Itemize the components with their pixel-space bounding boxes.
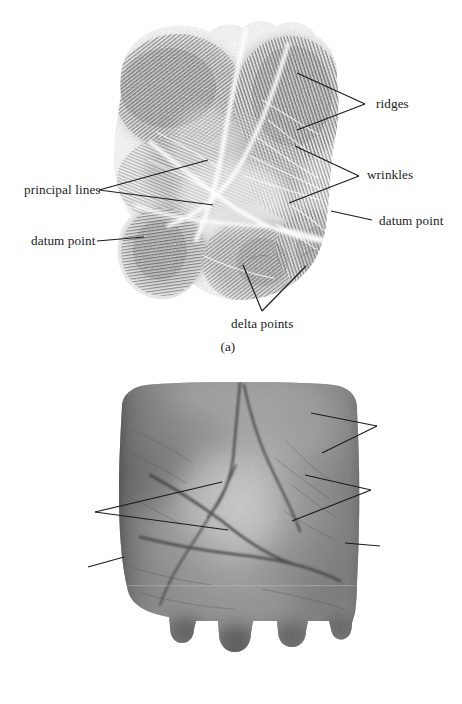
leader-ridges-lower xyxy=(297,104,365,130)
panel-b: ridges wrinkles datum point principal li… xyxy=(0,355,462,704)
leader-principal-lower xyxy=(99,190,213,205)
label-ridges-a: ridges xyxy=(376,97,409,110)
label-datum-point-right-a: datum point xyxy=(379,214,443,227)
label-delta-points-a: delta points xyxy=(231,317,293,330)
leader-datum-point-right xyxy=(345,543,380,546)
palmprint-figure: ridges wrinkles datum point principal li… xyxy=(0,0,462,704)
leader-wrinkles-upper xyxy=(305,475,371,490)
leader-ridges-lower xyxy=(322,426,377,453)
leader-ridges-upper xyxy=(311,413,377,426)
label-datum-point-left-a: datum point xyxy=(31,234,95,247)
label-wrinkles-a: wrinkles xyxy=(367,168,413,181)
label-principal-lines-a: principal lines xyxy=(24,183,101,196)
leader-principal-lower xyxy=(95,512,228,530)
leader-delta-left xyxy=(243,265,262,311)
leader-wrinkles-lower xyxy=(292,490,371,521)
leader-delta-right xyxy=(262,266,306,311)
panel-a-stage: ridges wrinkles datum point principal li… xyxy=(0,0,462,355)
leader-datum-point-right xyxy=(331,211,372,220)
panel-b-leader-lines xyxy=(0,355,462,704)
leader-datum-point-left xyxy=(97,237,144,241)
leader-principal-upper xyxy=(95,482,222,512)
leader-wrinkles-lower xyxy=(289,176,359,203)
panel-a: ridges wrinkles datum point principal li… xyxy=(0,0,462,355)
footer-partial-caption xyxy=(0,697,462,704)
leader-principal-upper xyxy=(99,160,208,190)
leader-wrinkles-upper xyxy=(295,146,359,176)
caption-panel-a: (a) xyxy=(221,339,236,355)
leader-datum-point-left xyxy=(88,557,124,567)
panel-b-stage: ridges wrinkles datum point principal li… xyxy=(0,355,462,704)
leader-ridges-upper xyxy=(297,73,365,104)
